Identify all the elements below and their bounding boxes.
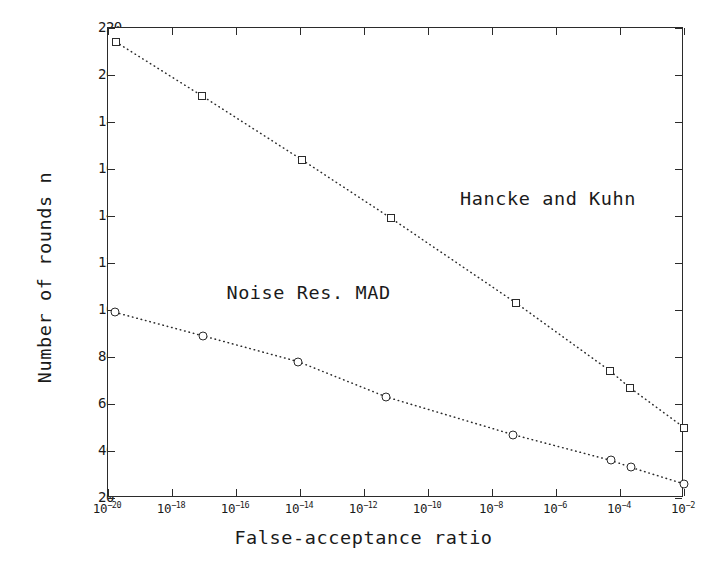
y-axis-tick — [675, 404, 682, 405]
x-axis-tick — [236, 489, 237, 496]
data-point-marker — [512, 299, 520, 307]
x-axis-tick-label: 10−18 — [157, 500, 186, 516]
x-axis-tick — [428, 28, 429, 35]
x-axis-tick-label: 10−8 — [479, 500, 503, 516]
data-point-marker — [627, 463, 636, 472]
y-axis-tick — [108, 404, 115, 405]
data-point-marker — [607, 456, 616, 465]
y-axis-tick — [108, 451, 115, 452]
x-axis-tick — [172, 489, 173, 496]
y-axis-tick — [108, 122, 115, 123]
x-axis-tick — [684, 489, 685, 496]
plot-area: Hancke and KuhnNoise Res. MAD — [107, 27, 683, 497]
data-point-marker — [294, 357, 303, 366]
x-axis-title: False-acceptance ratio — [0, 527, 727, 548]
y-axis-title-container: Number of rounds n — [14, 0, 54, 570]
data-point-marker — [199, 331, 208, 340]
x-axis-tick — [300, 489, 301, 496]
data-point-marker — [112, 38, 120, 46]
y-axis-tick — [675, 122, 682, 123]
y-axis-tick — [675, 451, 682, 452]
x-axis-tick — [492, 28, 493, 35]
data-point-marker — [606, 367, 614, 375]
y-axis-tick — [675, 498, 682, 499]
y-axis-tick — [675, 357, 682, 358]
x-axis-tick-label: 10−2 — [671, 500, 695, 516]
x-axis-tick — [300, 28, 301, 35]
y-axis-tick — [675, 263, 682, 264]
x-axis-tick-label: 10−6 — [543, 500, 567, 516]
y-axis-tick — [675, 216, 682, 217]
x-axis-tick — [364, 28, 365, 35]
x-axis-tick-label: 10−4 — [607, 500, 631, 516]
data-point-marker — [626, 384, 634, 392]
data-point-marker — [387, 214, 395, 222]
y-axis-tick — [108, 75, 115, 76]
y-axis-tick — [675, 310, 682, 311]
series-label-noise-res-mad: Noise Res. MAD — [226, 282, 390, 303]
data-point-marker — [680, 479, 689, 488]
y-axis-tick — [675, 75, 682, 76]
y-axis-tick — [675, 28, 682, 29]
x-axis-tick-label: 10−10 — [413, 500, 442, 516]
x-axis-tick — [620, 489, 621, 496]
data-point-marker — [198, 92, 206, 100]
x-axis-tick-label: 10−16 — [221, 500, 250, 516]
x-axis-tick — [492, 489, 493, 496]
x-axis-tick — [108, 489, 109, 496]
trend-lines — [108, 28, 684, 498]
x-axis-tick — [364, 489, 365, 496]
x-axis-tick — [620, 28, 621, 35]
x-axis-tick-label: 10−14 — [285, 500, 314, 516]
y-axis-title: Number of rounds n — [34, 78, 55, 478]
y-axis-tick — [108, 169, 115, 170]
x-axis-tick — [428, 489, 429, 496]
x-axis-tick — [236, 28, 237, 35]
y-axis-tick — [108, 357, 115, 358]
data-point-marker — [111, 308, 120, 317]
x-axis-tick — [556, 489, 557, 496]
y-axis-tick — [108, 498, 115, 499]
x-axis-tick — [556, 28, 557, 35]
x-axis-tick — [684, 28, 685, 35]
y-axis-tick — [675, 169, 682, 170]
data-point-marker — [382, 392, 391, 401]
x-axis-tick-label: 10−12 — [349, 500, 378, 516]
y-axis-tick — [108, 28, 115, 29]
data-point-marker — [298, 156, 306, 164]
x-axis-tick — [172, 28, 173, 35]
series-label-hancke-and-kuhn: Hancke and Kuhn — [460, 188, 636, 209]
data-point-marker — [508, 430, 517, 439]
y-axis-tick — [108, 216, 115, 217]
data-point-marker — [680, 424, 688, 432]
figure-canvas: Number of rounds n False-acceptance rati… — [0, 0, 727, 570]
y-axis-tick — [108, 263, 115, 264]
